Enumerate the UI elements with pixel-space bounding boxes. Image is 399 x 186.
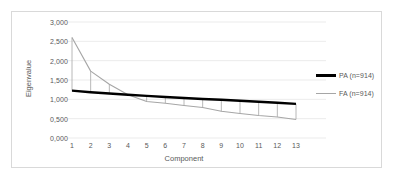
chart-figure: 0,0000,5001,0001,5002,0002,5003,000 1234… <box>0 0 399 186</box>
legend-label-fa: FA (n=914) <box>339 90 374 97</box>
y-axis-tick-label: 1,000 <box>30 96 68 103</box>
y-axis-tick-label: 3,000 <box>30 19 68 26</box>
x-axis-tick-label: 8 <box>201 142 205 149</box>
x-axis-tick-label: 9 <box>219 142 223 149</box>
legend-label-pa: PA (n=914) <box>339 72 374 79</box>
x-axis-tick-label: 11 <box>255 142 262 149</box>
x-axis-title: Component <box>165 154 204 163</box>
y-axis-tick-label: 2,500 <box>30 38 68 45</box>
x-axis-tick-label: 10 <box>236 142 244 149</box>
x-axis-tick-label: 1 <box>70 142 74 149</box>
x-axis-tick-label: 7 <box>182 142 186 149</box>
series-line-fa <box>72 37 296 119</box>
x-axis-tick-label: 5 <box>145 142 149 149</box>
legend-item-fa[interactable]: FA (n=914) <box>316 90 374 97</box>
y-axis-title: Eigenvalue <box>24 39 33 119</box>
x-axis-tick-label: 3 <box>107 142 111 149</box>
legend-swatch-fa-icon <box>316 93 336 94</box>
legend-swatch-pa-icon <box>316 74 336 76</box>
gridlines-group <box>68 22 326 138</box>
x-axis-tick-label: 13 <box>292 142 300 149</box>
x-axis-tick-label: 6 <box>163 142 167 149</box>
x-axis-tick-label: 2 <box>89 142 93 149</box>
legend-item-pa[interactable]: PA (n=914) <box>316 72 374 79</box>
y-axis-tick-label: 0,000 <box>30 135 68 142</box>
x-axis-tick-label: 4 <box>126 142 130 149</box>
y-axis-tick-label: 0,500 <box>30 115 68 122</box>
droplines-group <box>72 37 296 119</box>
y-axis-tick-label: 2,000 <box>30 57 68 64</box>
y-axis-tick-label: 1,500 <box>30 77 68 84</box>
x-axis-tick-label: 12 <box>273 142 281 149</box>
